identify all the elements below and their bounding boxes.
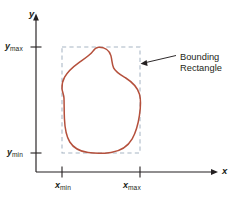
x-axis-arrowhead — [211, 169, 218, 175]
y-axis-label: y — [29, 9, 34, 19]
y-min-tick-label: ymin — [7, 148, 23, 157]
x-max-tick-label: xmax — [123, 181, 141, 190]
annotation-leader-line — [146, 56, 176, 63]
x-axis-label: x — [222, 166, 227, 176]
bounding-rectangle-figure: y x ymax ymin xmin xmax Bounding Rectang… — [0, 0, 236, 200]
bounding-rectangle — [62, 47, 140, 153]
annotation-line-1: Bounding — [180, 52, 222, 63]
y-max-tick-label: ymax — [5, 42, 23, 51]
closed-curve — [62, 47, 141, 153]
x-max-subscript: max — [128, 184, 141, 191]
annotation-text: Bounding Rectangle — [180, 52, 222, 75]
y-max-subscript: max — [10, 45, 23, 52]
x-min-subscript: min — [60, 184, 71, 191]
figure-canvas — [0, 0, 236, 200]
annotation-line-2: Rectangle — [180, 63, 222, 74]
annotation-leader-arrowhead — [141, 60, 148, 66]
x-min-tick-label: xmin — [55, 181, 71, 190]
y-min-subscript: min — [12, 151, 23, 158]
